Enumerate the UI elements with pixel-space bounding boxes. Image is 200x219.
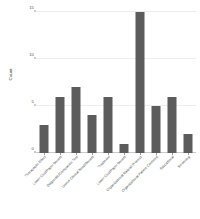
bar	[104, 97, 113, 153]
bar-series	[36, 12, 196, 153]
bar-slot	[148, 12, 164, 153]
y-axis-tick-label: 5	[32, 99, 34, 104]
bar-slot	[84, 12, 100, 153]
y-axis-tick-label: 15	[29, 5, 34, 10]
y-axis-tick-label: 0	[32, 146, 34, 151]
bar-slot	[52, 12, 68, 153]
bar-slot	[116, 12, 132, 153]
bar	[72, 87, 81, 153]
plot-area: 051015	[36, 12, 196, 153]
bar	[88, 115, 97, 153]
bar-chart: Count 051015 Therapeutic EffectLower Cos…	[0, 0, 200, 219]
bar	[120, 144, 129, 153]
y-axis-tick-label: 10	[29, 52, 34, 57]
x-axis-labels: Therapeutic EffectLower Cost/Payer Benef…	[36, 155, 196, 217]
bar	[136, 12, 145, 153]
bar-slot	[36, 12, 52, 153]
bar-slot	[100, 12, 116, 153]
bar-slot	[180, 12, 196, 153]
bar	[152, 106, 161, 153]
bar-slot	[68, 12, 84, 153]
bar-slot	[164, 12, 180, 153]
bar	[184, 134, 193, 153]
bar	[56, 97, 65, 153]
bar	[40, 125, 49, 153]
bar	[168, 97, 177, 153]
y-axis-title: Count	[8, 53, 13, 97]
bar-slot	[132, 12, 148, 153]
